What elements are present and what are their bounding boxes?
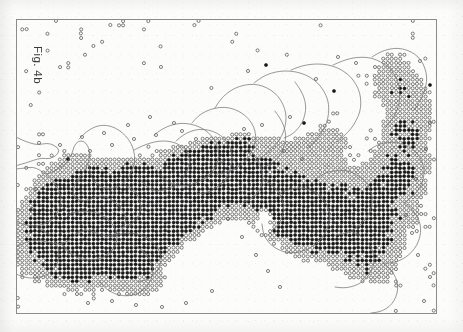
figure-frame [16, 19, 437, 314]
figure-caption: Fig. 4b [32, 46, 44, 84]
figure-root: Fig. 4b [0, 0, 463, 332]
